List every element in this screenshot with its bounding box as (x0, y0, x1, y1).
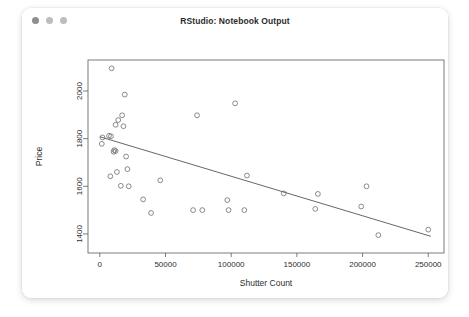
data-point (141, 197, 146, 202)
data-point (124, 154, 129, 159)
data-point (376, 233, 381, 238)
data-point (120, 113, 125, 118)
data-point (108, 174, 113, 179)
data-point (200, 208, 205, 213)
x-axis-tick-labels: 050000100000150000200000250000 (98, 260, 443, 269)
data-point (315, 192, 320, 197)
data-point (426, 227, 431, 232)
y-tick-label: 2000 (75, 82, 84, 100)
data-point (126, 184, 131, 189)
x-tick-label: 100000 (218, 260, 245, 269)
window-title: RStudio: Notebook Output (22, 16, 448, 26)
data-point (158, 178, 163, 183)
data-point (195, 113, 200, 118)
data-point (125, 167, 130, 172)
x-tick-label: 0 (98, 260, 103, 269)
window-titlebar: RStudio: Notebook Output (22, 8, 448, 35)
y-tick-label: 1600 (75, 177, 84, 195)
x-axis-title: Shutter Count (240, 278, 293, 288)
data-point (121, 124, 126, 129)
data-point (122, 92, 127, 97)
data-point (149, 211, 154, 216)
fit-line (100, 137, 431, 237)
data-point (118, 183, 123, 188)
data-point (359, 204, 364, 209)
notebook-output-window: RStudio: Notebook Output 050000100000150… (22, 8, 448, 298)
y-tick-label: 1800 (75, 129, 84, 147)
data-point (115, 170, 120, 175)
y-tick-label: 1400 (75, 224, 84, 242)
x-tick-label: 250000 (415, 260, 442, 269)
y-axis-title: Price (34, 147, 44, 167)
data-point (191, 208, 196, 213)
regression-line (100, 137, 431, 237)
x-tick-label: 200000 (349, 260, 376, 269)
data-point (242, 208, 247, 213)
data-point (233, 101, 238, 106)
data-point (113, 122, 118, 127)
data-point (313, 207, 318, 212)
plot-canvas: 050000100000150000200000250000 140016001… (22, 35, 448, 298)
data-point (245, 173, 250, 178)
data-point (364, 184, 369, 189)
y-axis-tick-labels: 1400160018002000 (75, 82, 84, 243)
data-point (116, 118, 121, 123)
data-point (109, 66, 114, 71)
data-point (225, 198, 230, 203)
y-axis-ticks (83, 91, 88, 234)
x-axis-ticks (100, 253, 428, 257)
scatter-plot: 050000100000150000200000250000 140016001… (22, 35, 448, 298)
data-point (226, 208, 231, 213)
x-tick-label: 50000 (154, 260, 177, 269)
x-tick-label: 150000 (284, 260, 311, 269)
data-point (99, 141, 104, 146)
